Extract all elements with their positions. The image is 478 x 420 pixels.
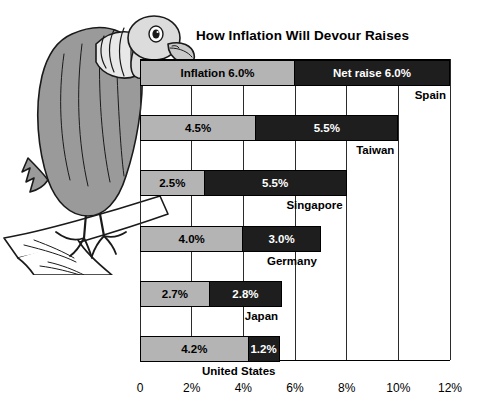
x-tick-label-4: 4% — [235, 381, 252, 395]
bar-netraise-taiwan: 5.5% — [255, 115, 398, 141]
country-label-japan: Japan — [132, 310, 278, 322]
country-label-germany: Germany — [171, 255, 317, 267]
bar-inflation-spain: Inflation 6.0% — [140, 60, 295, 86]
gridline-12 — [450, 59, 451, 360]
country-label-taiwan: Taiwan — [248, 144, 394, 156]
bar-inflation-singapore: 2.5% — [140, 170, 205, 196]
x-tick-label-10: 10% — [386, 381, 410, 395]
bar-inflation-taiwan: 4.5% — [140, 115, 256, 141]
x-tick-label-2: 2% — [183, 381, 200, 395]
chart-figure: How Inflation Will Devour Raises Inflati… — [0, 0, 478, 420]
x-tick-label-6: 6% — [286, 381, 303, 395]
x-tick-label-8: 8% — [338, 381, 355, 395]
x-tick-label-12: 12% — [438, 381, 462, 395]
country-label-spain: Spain — [300, 89, 446, 101]
bar-netraise-united-states: 1.2% — [248, 336, 280, 362]
bar-netraise-japan: 2.8% — [209, 281, 282, 307]
bar-inflation-united-states: 4.2% — [140, 336, 249, 362]
x-tick-label-0: 0 — [137, 381, 144, 395]
chart-title: How Inflation Will Devour Raises — [155, 28, 450, 43]
gridline-10 — [398, 59, 399, 360]
chart-area: How Inflation Will Devour Raises Inflati… — [0, 0, 478, 420]
bar-inflation-japan: 2.7% — [140, 281, 210, 307]
country-label-singapore: Singapore — [197, 199, 343, 211]
gridline-8 — [346, 59, 347, 360]
bar-netraise-germany: 3.0% — [242, 226, 321, 252]
bar-inflation-germany: 4.0% — [140, 226, 243, 252]
bar-netraise-singapore: 5.5% — [204, 170, 347, 196]
country-label-united-states: United States — [130, 365, 276, 377]
bar-netraise-spain: Net raise 6.0% — [294, 60, 450, 86]
